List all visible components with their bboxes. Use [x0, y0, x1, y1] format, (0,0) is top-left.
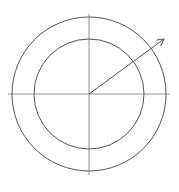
concentric-circles-diagram	[0, 0, 179, 192]
radius-vector-arrow	[89, 39, 164, 94]
